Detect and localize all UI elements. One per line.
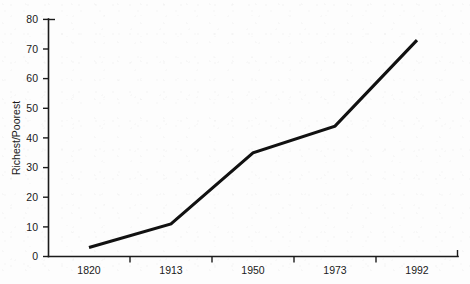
y-tick-label-40: 40 — [26, 132, 38, 144]
y-tick-label-10: 10 — [26, 221, 38, 233]
chart-page: 0 10 20 30 40 50 60 70 80 1820 1913 1950… — [0, 0, 470, 284]
x-tick-label-1913: 1913 — [159, 264, 183, 276]
x-tick-label-1973: 1973 — [323, 264, 347, 276]
y-axis-ticks — [43, 19, 49, 256]
x-axis-ticks — [130, 257, 376, 263]
y-tick-label-30: 30 — [26, 161, 38, 173]
y-tick-label-0: 0 — [32, 250, 38, 262]
y-tick-label-50: 50 — [26, 102, 38, 114]
x-tick-label-1992: 1992 — [405, 264, 429, 276]
chart-axes — [49, 19, 459, 257]
x-axis-tick-labels: 1820 1913 1950 1973 1992 — [77, 264, 429, 276]
x-tick-label-1950: 1950 — [241, 264, 265, 276]
y-axis-title: Richest/Poorest — [10, 101, 22, 175]
x-tick-label-1820: 1820 — [77, 264, 101, 276]
y-axis-tick-labels: 0 10 20 30 40 50 60 70 80 — [26, 13, 38, 262]
data-series-line — [89, 40, 417, 248]
y-tick-label-60: 60 — [26, 72, 38, 84]
y-tick-label-70: 70 — [26, 43, 38, 55]
y-tick-label-80: 80 — [26, 13, 38, 25]
y-tick-label-20: 20 — [26, 191, 38, 203]
line-chart: 0 10 20 30 40 50 60 70 80 1820 1913 1950… — [0, 0, 470, 284]
